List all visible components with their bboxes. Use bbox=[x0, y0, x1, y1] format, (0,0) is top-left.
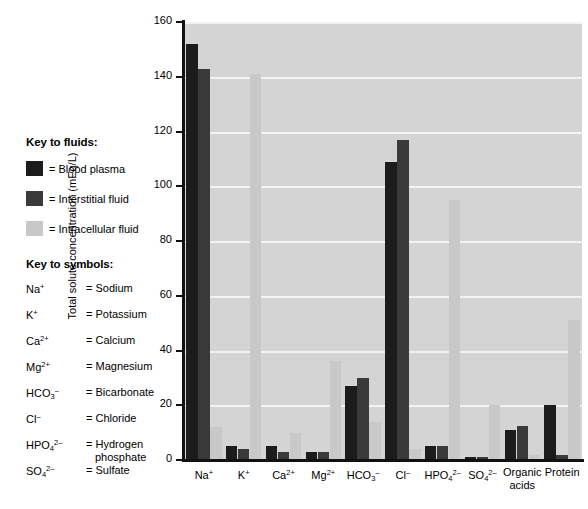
gridline bbox=[184, 405, 582, 407]
gridline bbox=[184, 241, 582, 243]
bar bbox=[290, 433, 302, 460]
x-axis-line bbox=[182, 459, 584, 462]
y-axis-tick-label: 20 bbox=[138, 397, 172, 409]
bar bbox=[357, 378, 369, 460]
y-axis-tick-mark bbox=[176, 185, 182, 187]
y-axis-tick-label: 80 bbox=[138, 233, 172, 245]
y-axis-tick-label: 60 bbox=[138, 288, 172, 300]
gridline bbox=[184, 22, 582, 24]
y-axis-tick-mark bbox=[176, 21, 182, 23]
bar bbox=[198, 69, 210, 460]
bar-chart: Total solute concentration (mEq/L) 02040… bbox=[0, 0, 588, 509]
y-axis-title: Total solute concentration (mEq/L) bbox=[66, 96, 78, 376]
y-axis-tick-label: 140 bbox=[138, 69, 172, 81]
bar bbox=[369, 422, 381, 460]
bar bbox=[489, 405, 501, 460]
bar bbox=[250, 74, 262, 460]
bar bbox=[449, 200, 461, 460]
bar bbox=[544, 405, 556, 460]
bar bbox=[186, 44, 198, 460]
bar bbox=[210, 427, 222, 460]
bar bbox=[266, 446, 278, 460]
bar bbox=[425, 446, 437, 460]
bar bbox=[505, 430, 517, 460]
y-axis-tick-mark bbox=[176, 404, 182, 406]
y-axis-tick-mark bbox=[176, 76, 182, 78]
bar bbox=[226, 446, 238, 460]
gridline bbox=[184, 77, 582, 79]
gridline bbox=[184, 186, 582, 188]
bar bbox=[345, 386, 357, 460]
y-axis-tick-label: 120 bbox=[138, 124, 172, 136]
bar bbox=[330, 361, 342, 460]
y-axis-line bbox=[182, 20, 185, 462]
plot-area bbox=[184, 22, 582, 460]
y-axis-tick-mark bbox=[176, 295, 182, 297]
y-axis-tick-label: 40 bbox=[138, 343, 172, 355]
y-axis-tick-mark bbox=[176, 350, 182, 352]
y-axis-tick-label: 0 bbox=[138, 452, 172, 464]
gridline bbox=[184, 296, 582, 298]
y-axis-tick-mark bbox=[176, 131, 182, 133]
x-axis-tick-label: Protein bbox=[534, 466, 588, 479]
bar bbox=[437, 446, 449, 460]
chart-page: Key to fluids: = Blood plasma = Intersti… bbox=[0, 0, 588, 509]
bar bbox=[397, 140, 409, 460]
gridline bbox=[184, 351, 582, 353]
gridline bbox=[184, 132, 582, 134]
y-axis-tick-label: 100 bbox=[138, 178, 172, 190]
y-axis-tick-mark bbox=[176, 459, 182, 461]
y-axis-tick-mark bbox=[176, 240, 182, 242]
y-axis-tick-label: 160 bbox=[138, 14, 172, 26]
bar bbox=[568, 320, 580, 460]
bar bbox=[385, 162, 397, 460]
bar bbox=[517, 426, 529, 460]
